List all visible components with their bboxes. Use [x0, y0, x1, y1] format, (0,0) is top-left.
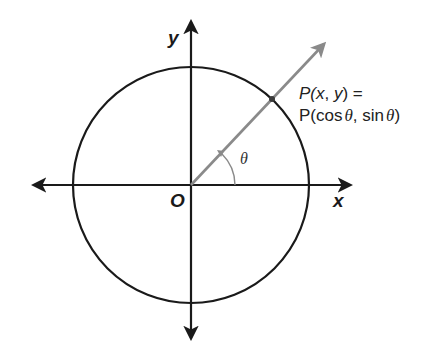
point-label-theta2: θ [386, 106, 394, 125]
x-axis-label: x [332, 190, 345, 211]
point-label-sin: , sin [353, 106, 384, 125]
point-label-x: x [315, 84, 325, 103]
y-axis-label: y [167, 27, 180, 48]
point-label-suffix: ) = [342, 84, 362, 103]
point-label-line2: P(cosθ, sinθ) [299, 106, 400, 125]
point-label-line1: P(x, y) = [299, 84, 363, 103]
unit-circle-diagram: y x O θ P(x, y) = P(cosθ, sinθ) [0, 0, 443, 358]
point-label-theta1: θ [344, 106, 352, 125]
origin-label: O [170, 190, 185, 211]
point-p-marker [269, 96, 275, 102]
theta-label: θ [240, 150, 248, 167]
angle-arc [222, 154, 235, 185]
point-label-cos: P(cos [299, 106, 342, 125]
point-label-close: ) [394, 106, 400, 125]
point-label-sep: , [325, 84, 334, 103]
